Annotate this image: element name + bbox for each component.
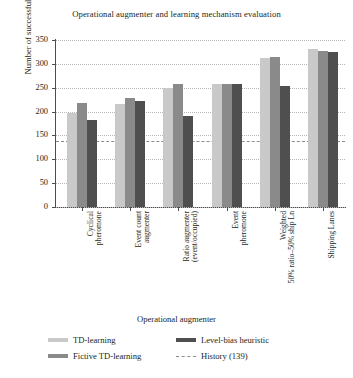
legend-swatch-medium-icon (48, 354, 68, 358)
bar[interactable] (260, 58, 270, 207)
bar-group (163, 40, 193, 207)
x-axis-category-label: Event count augmenter (135, 211, 152, 303)
legend-label: History (139) (201, 351, 248, 361)
y-axis-tick (52, 40, 56, 41)
x-axis-tick (178, 207, 179, 211)
y-axis-tick (52, 207, 56, 208)
x-axis-category-label: Shipping Lanes (328, 211, 336, 303)
y-axis-tick-label: 50 (18, 179, 48, 187)
legend-item[interactable]: TD-learning (48, 332, 176, 348)
gridline (56, 88, 345, 89)
legend-swatch-light-icon (48, 338, 68, 342)
legend-swatch-dashed-icon (176, 356, 196, 357)
x-axis-tick (227, 207, 228, 211)
gridline (56, 112, 345, 113)
bar-group (260, 40, 290, 207)
y-axis-tick-label: 150 (18, 131, 48, 139)
legend-item[interactable]: History (139) (176, 348, 348, 364)
x-axis-category-label: Cyclical pheromone (87, 211, 104, 303)
y-axis-tick-label: 350 (18, 36, 48, 44)
bar[interactable] (125, 98, 135, 207)
bar[interactable] (163, 88, 173, 207)
y-axis-tick-label: 100 (18, 155, 48, 163)
legend-item[interactable]: Level-bias heuristic (176, 332, 348, 348)
plot-area: 050100150200250300350 (56, 40, 345, 207)
bar[interactable] (87, 120, 97, 207)
bar[interactable] (318, 51, 328, 208)
y-axis-tick-label: 250 (18, 84, 48, 92)
y-axis-tick (52, 112, 56, 113)
history-reference-line (56, 141, 345, 142)
bar[interactable] (270, 57, 280, 207)
bar[interactable] (67, 113, 77, 207)
y-axis-tick-label: 300 (18, 60, 48, 68)
legend-label: Fictive TD-learning (73, 351, 141, 361)
gridline (56, 40, 345, 41)
chart-figure: Operational augmenter and learning mecha… (0, 0, 353, 378)
bar-group (115, 40, 145, 207)
gridline (56, 135, 345, 136)
legend-swatch-dark-icon (176, 338, 196, 342)
y-axis-tick (52, 64, 56, 65)
bar-group (308, 40, 338, 207)
y-axis-tick (52, 183, 56, 184)
y-axis-tick (52, 88, 56, 89)
bar[interactable] (232, 84, 242, 207)
gridline (56, 159, 345, 160)
bar[interactable] (115, 104, 125, 207)
x-axis-tick (130, 207, 131, 211)
y-axis-tick (52, 159, 56, 160)
chart-legend: TD-learningLevel-bias heuristicFictive T… (48, 332, 348, 364)
bar[interactable] (222, 84, 232, 207)
y-axis-tick (52, 135, 56, 136)
gridline (56, 183, 345, 184)
bar[interactable] (280, 86, 290, 207)
bar[interactable] (173, 84, 183, 207)
y-axis-tick-label: 200 (18, 108, 48, 116)
x-axis-tick (275, 207, 276, 211)
bar[interactable] (135, 101, 145, 207)
bar[interactable] (212, 84, 222, 207)
x-axis-category-label: Event pheromone (232, 211, 249, 303)
legend-label: Level-bias heuristic (201, 335, 269, 345)
bar-group (212, 40, 242, 207)
x-axis-tick (323, 207, 324, 211)
x-axis-title: Operational augmenter (0, 314, 353, 324)
x-axis-category-label: Weighted 50% ratio–50% ship Ln (280, 211, 297, 303)
legend-item[interactable]: Fictive TD-learning (48, 348, 176, 364)
x-axis-category-label: Ratio augmenter (event/occupied) (183, 211, 200, 303)
bar[interactable] (183, 116, 193, 207)
bar-group (67, 40, 97, 207)
x-axis-tick (82, 207, 83, 211)
chart-title: Operational augmenter and learning mecha… (0, 9, 353, 19)
bar[interactable] (77, 103, 87, 207)
y-axis-title: Number of successful events (23, 0, 33, 95)
bar[interactable] (328, 52, 338, 207)
y-axis-tick-label: 0 (18, 203, 48, 211)
legend-label: TD-learning (73, 335, 115, 345)
bar[interactable] (308, 49, 318, 207)
gridline (56, 207, 345, 208)
gridline (56, 64, 345, 65)
